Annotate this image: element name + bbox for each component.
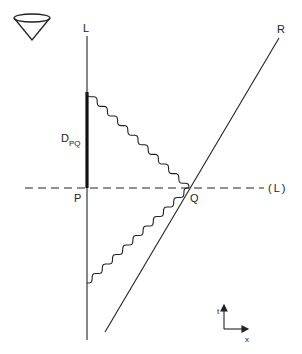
- worldline-R: [105, 38, 279, 332]
- label-axis-t: t: [217, 307, 220, 316]
- signal-wave-lower: [87, 188, 189, 283]
- label-Q: Q: [190, 192, 199, 204]
- axes-indicator: [221, 305, 248, 332]
- label-P: P: [74, 192, 81, 204]
- label-axis-x: x: [245, 335, 249, 344]
- label-simultaneity: (L): [268, 182, 287, 194]
- spacetime-diagram: L R P Q (L) DPQ t x: [0, 0, 302, 354]
- signal-wave-upper: [87, 92, 189, 188]
- label-duration: DPQ: [61, 132, 81, 148]
- label-R: R: [277, 23, 285, 35]
- diagram-svg: L R P Q (L) DPQ t x: [0, 0, 302, 354]
- label-L: L: [83, 22, 89, 34]
- light-cone-icon: [14, 14, 50, 40]
